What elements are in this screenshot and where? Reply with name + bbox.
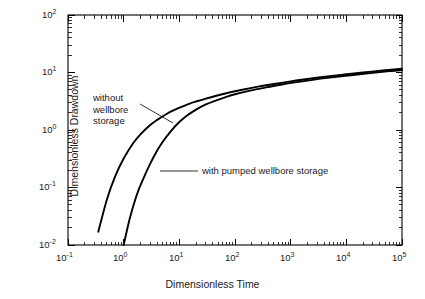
x-axis-title: Dimensionless Time xyxy=(0,278,425,290)
chart-figure: 10-1 100 101 102 103 104 105 102 101 100… xyxy=(0,0,425,299)
xtick-label-1: 100 xyxy=(113,252,127,263)
annotation-line-2: storage xyxy=(93,115,128,127)
annotation-line-1: wellbore xyxy=(93,104,128,116)
annotation-line-0: without xyxy=(93,92,128,104)
ytick-label-0: 102 xyxy=(42,9,56,20)
xtick-label-2: 101 xyxy=(169,252,183,263)
xtick-label-3: 102 xyxy=(225,252,239,263)
ytick-label-1: 101 xyxy=(42,66,56,77)
xtick-label-4: 103 xyxy=(280,252,294,263)
annotation-without-wellbore-storage: without wellbore storage xyxy=(93,92,128,127)
xtick-label-5: 104 xyxy=(336,252,350,263)
y-axis-title-wrap: Dimensionless Drawdown xyxy=(14,130,135,142)
annotation-line-0: with pumped wellbore storage xyxy=(202,165,328,177)
ytick-label-3: 10-1 xyxy=(39,181,56,192)
annotation-with-pumped-wellbore-storage: with pumped wellbore storage xyxy=(202,165,328,177)
y-axis-title: Dimensionless Drawdown xyxy=(68,76,80,197)
xtick-label-0: 10-1 xyxy=(56,252,73,263)
ytick-label-4: 10-2 xyxy=(39,239,56,250)
xtick-label-6: 105 xyxy=(392,252,406,263)
